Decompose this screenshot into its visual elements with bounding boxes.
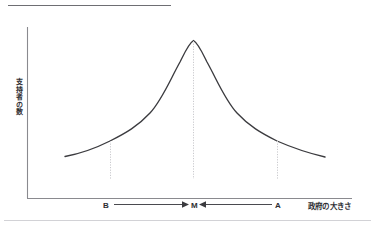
figure-container: 支持者の数 B M A 政府の大きさ xyxy=(0,0,375,231)
x-axis-label: 政府の大きさ xyxy=(308,200,351,211)
arrow-a-to-m-head xyxy=(199,201,206,208)
point-label-m: M xyxy=(191,201,198,210)
bottom-divider xyxy=(4,220,371,221)
bell-curve-chart xyxy=(0,0,375,231)
point-label-a: A xyxy=(275,201,281,210)
point-label-b: B xyxy=(103,201,109,210)
distribution-curve xyxy=(65,41,325,158)
y-axis-label: 支持者の数 xyxy=(13,78,24,116)
arrow-b-to-m-head xyxy=(182,201,189,208)
